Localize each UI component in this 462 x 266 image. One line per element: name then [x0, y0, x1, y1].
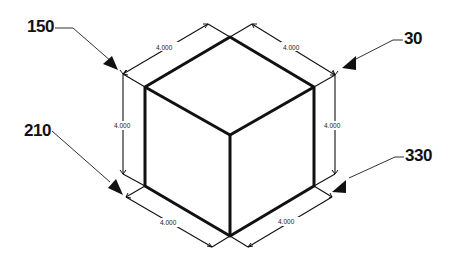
- view-label-330: 330: [405, 146, 432, 166]
- leader-150: [55, 28, 112, 62]
- leader-330: [349, 157, 404, 178]
- arrow-icon-30: [342, 56, 356, 70]
- view-label-150: 150: [27, 17, 54, 37]
- dim-text-top-right: 4.000: [283, 44, 300, 51]
- view-label-30: 30: [404, 29, 422, 49]
- view-leaders: [52, 28, 404, 182]
- cube-edge-center-top-right: [230, 87, 314, 135]
- leader-210: [52, 131, 110, 182]
- arrow-icon-330: [332, 180, 346, 193]
- isometric-cube-diagram: 4.000 4.000 4.000 4.000 4.000 4.000: [0, 0, 462, 266]
- dim-text-top-left: 4.000: [156, 44, 173, 51]
- arrow-icon-210: [108, 179, 123, 195]
- dim-text-bottom-right: 4.000: [278, 218, 295, 225]
- cube: [145, 37, 314, 236]
- arrow-icon-150: [103, 56, 118, 70]
- dim-text-right: 4.000: [324, 122, 341, 129]
- dim-text-bottom-left: 4.000: [160, 219, 177, 226]
- view-label-210: 210: [24, 121, 51, 141]
- dim-text-left: 4.000: [114, 122, 131, 129]
- cube-edge-center-top-left: [145, 87, 230, 135]
- leader-30: [356, 40, 403, 59]
